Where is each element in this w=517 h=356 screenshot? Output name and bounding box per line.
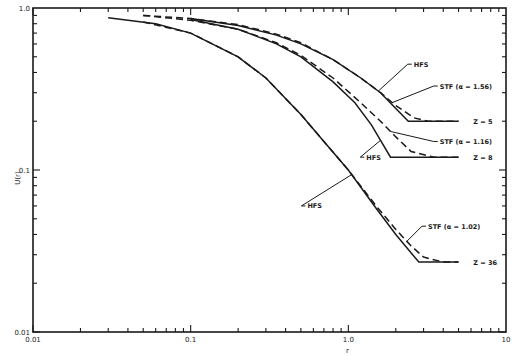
axes: 0.010.11.0100.010.11.0 — [14, 5, 510, 345]
annotation-leader — [390, 131, 437, 141]
chart-figure: 0.010.11.0100.010.11.0 HFSSTF (α = 1.56)… — [0, 0, 517, 356]
series-z-8-hfs — [191, 19, 459, 157]
x-tick-label: 0.1 — [185, 336, 196, 344]
annotation-label: HFS — [366, 154, 381, 162]
x-tick-label: 1.0 — [343, 336, 354, 344]
y-tick-label: 0.01 — [14, 329, 30, 337]
annotation-leader — [378, 64, 411, 91]
series-z-36-stf-1-02 — [143, 22, 458, 262]
series-z-5-stf-1-56 — [143, 15, 458, 121]
annotation-label: Z = 5 — [473, 118, 493, 126]
series-z-5-hfs — [191, 19, 459, 122]
x-tick-label: 0.01 — [25, 336, 41, 344]
annotation-label: Z = 8 — [473, 154, 493, 162]
annotation-label: STF (α = 1.16) — [440, 138, 492, 146]
annotation-label: Z = 36 — [473, 259, 497, 267]
plot-frame — [33, 8, 506, 332]
annotation-label: HFS — [414, 61, 429, 69]
annotation-label: STF (α = 1.02) — [428, 223, 480, 231]
annotation-leader — [301, 175, 351, 206]
y-tick-label: 1.0 — [19, 5, 30, 13]
x-tick-label: 10 — [502, 336, 511, 344]
x-axis-label: r — [346, 347, 349, 355]
annotation-leader — [407, 226, 426, 241]
annotation-leader — [392, 86, 437, 103]
series-z-36-hfs — [108, 18, 458, 262]
annotation-label: STF (α = 1.56) — [440, 83, 492, 91]
annotation-label: HFS — [307, 202, 322, 210]
annotations-group: HFSSTF (α = 1.56)Z = 5STF (α = 1.16)HFSZ… — [301, 61, 497, 267]
y-axis-label: U(r) — [14, 171, 22, 185]
series-group — [108, 15, 458, 262]
